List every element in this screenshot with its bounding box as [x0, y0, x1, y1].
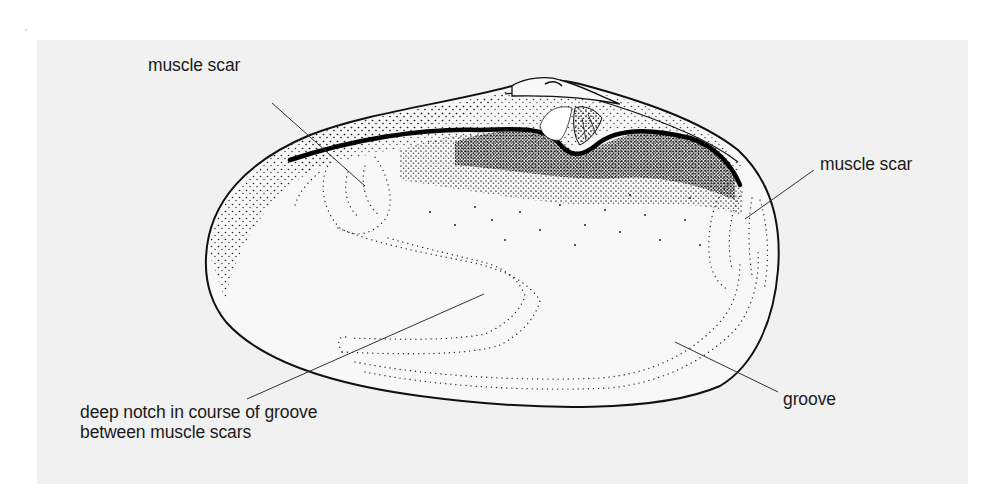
label-deep-notch-line2: between muscle scars	[80, 422, 317, 442]
label-deep-notch-line1: deep notch in course of groove	[80, 402, 317, 422]
label-muscle-scar-right: muscle scar	[820, 154, 912, 174]
label-deep-notch: deep notch in course of groove between m…	[80, 402, 317, 442]
shell-valve	[200, 80, 779, 407]
label-groove: groove	[783, 389, 836, 409]
label-muscle-scar-left: muscle scar	[148, 55, 240, 75]
